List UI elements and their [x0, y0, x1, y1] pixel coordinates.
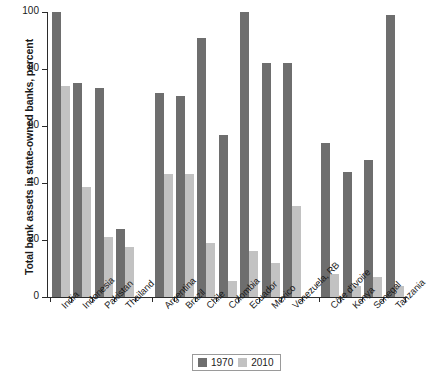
bar-1970-colombia: [219, 135, 228, 297]
bar-1970-tanzania: [386, 15, 395, 297]
legend-swatch-2010: [238, 358, 247, 367]
bar-2010-chile: [206, 243, 215, 297]
y-tick: 100: [42, 12, 47, 13]
bar-1970-indonesia: [73, 83, 82, 297]
bar-1970-chile: [197, 38, 206, 297]
bar-1970-venezuela-rb: [283, 63, 292, 297]
y-tick-label: 80: [28, 62, 39, 73]
bar-1970-mexico: [262, 63, 271, 297]
y-tick: 80: [42, 69, 47, 70]
bar-1970-kenya: [343, 172, 352, 297]
y-tick-label: 100: [22, 5, 39, 16]
y-tick-label: 40: [28, 176, 39, 187]
bar-1970-india: [52, 12, 61, 297]
bar-2010-indonesia: [82, 187, 91, 297]
y-tick-label: 0: [33, 290, 39, 301]
legend-label-1970: 1970: [211, 357, 233, 368]
plot-area: 020406080100: [47, 12, 406, 297]
legend-item-2010: 2010: [238, 357, 273, 368]
chart-legend: 1970 2010: [192, 354, 281, 371]
bars-layer: [47, 12, 406, 297]
bar-2010-argentina: [164, 174, 173, 297]
y-tick: 40: [42, 183, 47, 184]
legend-label-2010: 2010: [251, 357, 273, 368]
bar-1970-pakistan: [95, 88, 104, 297]
bar-2010-venezuela-rb: [292, 206, 301, 297]
bar-1970-argentina: [155, 93, 164, 297]
legend-item-1970: 1970: [198, 357, 233, 368]
y-axis-title: Total bank assets in state-owned banks, …: [23, 7, 35, 307]
y-tick-label: 60: [28, 119, 39, 130]
bar-1970-brazil: [176, 96, 185, 297]
bar-2010-india: [61, 86, 70, 297]
y-tick: 60: [42, 126, 47, 127]
y-tick-label: 20: [28, 233, 39, 244]
legend-swatch-1970: [198, 358, 207, 367]
y-tick: 20: [42, 240, 47, 241]
bar-1970-ecuador: [240, 12, 249, 297]
